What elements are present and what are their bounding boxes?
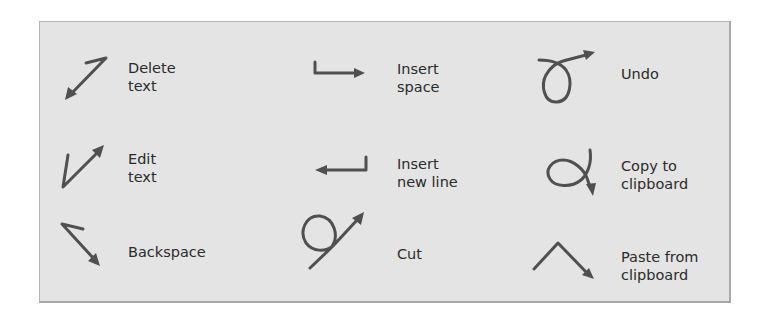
label-line: Edit xyxy=(128,150,157,168)
label-edit-text: Edit text xyxy=(128,150,157,186)
label-line: Undo xyxy=(621,65,659,83)
label-line: clipboard xyxy=(621,175,688,193)
label-copy-to-clipboard: Copy to clipboard xyxy=(621,157,688,193)
label-line: space xyxy=(397,78,440,96)
label-insert-new-line: Insert new line xyxy=(397,155,458,191)
label-line: Cut xyxy=(397,245,422,263)
label-line: Delete xyxy=(128,59,176,77)
label-line: clipboard xyxy=(621,266,699,284)
label-line: new line xyxy=(397,173,458,191)
label-line: Copy to xyxy=(621,157,688,175)
label-insert-space: Insert space xyxy=(397,60,440,96)
label-paste-from-clipboard: Paste from clipboard xyxy=(621,248,699,284)
label-line: Insert xyxy=(397,60,440,78)
label-line: Paste from xyxy=(621,248,699,266)
label-line: Backspace xyxy=(128,243,206,261)
label-undo: Undo xyxy=(621,65,659,83)
label-cut: Cut xyxy=(397,245,422,263)
label-backspace: Backspace xyxy=(128,243,206,261)
label-line: text xyxy=(128,168,157,186)
label-delete-text: Delete text xyxy=(128,59,176,95)
label-line: Insert xyxy=(397,155,458,173)
label-line: text xyxy=(128,77,176,95)
